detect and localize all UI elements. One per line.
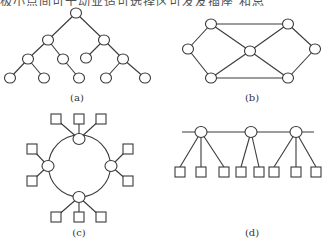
terminal-box (175, 167, 185, 177)
mesh-node (283, 19, 294, 29)
terminal-box (291, 167, 301, 177)
label-d: (d) (245, 227, 259, 238)
mesh-edge (288, 49, 315, 78)
terminal-box (123, 176, 133, 186)
terminal-box (27, 144, 37, 154)
terminal-box (123, 144, 133, 154)
mesh-node (245, 46, 256, 56)
tree-topology (5, 8, 151, 83)
terminal-box (74, 114, 84, 124)
mesh-node (206, 19, 217, 29)
topology-diagrams: (a) (b) (c) (d) (0, 0, 328, 243)
mesh-edge (250, 24, 288, 51)
tree-node (118, 54, 129, 64)
ring-node (105, 161, 117, 172)
mesh-edge (211, 51, 250, 78)
mesh-edge (211, 24, 250, 51)
tree-node (43, 35, 54, 45)
terminal-box (254, 167, 264, 177)
terminal-box (96, 114, 106, 124)
terminal-box (311, 167, 321, 177)
terminal-box (27, 176, 37, 186)
tree-edge (76, 13, 104, 40)
tree-node (81, 53, 92, 63)
bus-node (290, 127, 302, 138)
ring-node (42, 161, 54, 172)
tree-node (23, 54, 34, 64)
bus-node (195, 127, 207, 138)
terminal-box (269, 167, 279, 177)
bus-node (245, 127, 257, 138)
label-a: (a) (70, 92, 84, 103)
tree-node (99, 35, 110, 45)
tree-node (58, 54, 69, 64)
terminal-box (51, 114, 61, 124)
mesh-node (183, 44, 194, 54)
tree-node (39, 73, 50, 83)
terminal-box (96, 212, 106, 222)
tree-edge (48, 13, 76, 40)
ring-topology (27, 114, 133, 222)
ring-node (73, 134, 85, 145)
mesh-topology (183, 19, 321, 83)
tree-node (101, 73, 112, 83)
mesh-node (283, 73, 294, 83)
bus-drop-line (201, 132, 224, 167)
terminal-box (51, 212, 61, 222)
mesh-edge (250, 51, 288, 78)
tree-node (140, 73, 151, 83)
bus-topology (175, 127, 321, 178)
tree-node (71, 8, 82, 18)
tree-node (74, 73, 85, 83)
terminal-box (219, 167, 229, 177)
tree-node (5, 73, 16, 83)
mesh-node (310, 44, 321, 54)
terminal-box (74, 212, 84, 222)
bus-drop-line (274, 132, 296, 167)
label-b: (b) (245, 92, 259, 103)
terminal-box (196, 167, 206, 177)
mesh-node (206, 73, 217, 83)
label-c: (c) (72, 227, 86, 238)
ring-node (73, 192, 85, 203)
terminal-box (236, 167, 246, 177)
